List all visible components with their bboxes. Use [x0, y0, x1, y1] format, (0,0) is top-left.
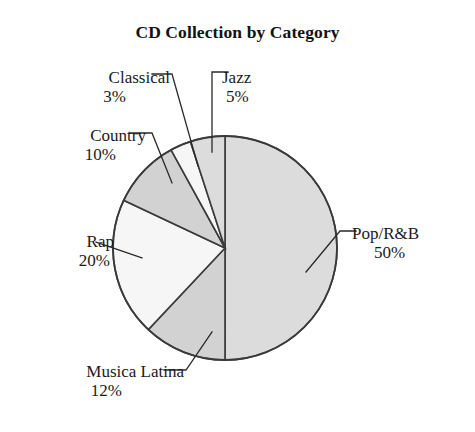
slice-label-country-name: Country	[28, 126, 146, 145]
slice-label-classical: Classical 3%	[52, 68, 170, 106]
slice-label-classical-percent: 3%	[52, 87, 170, 106]
pie-slice-pop-rnb[interactable]	[225, 136, 337, 360]
slice-label-musica-latina-name: Musica Latina	[8, 362, 184, 381]
slice-label-jazz: Jazz 5%	[222, 68, 312, 106]
slice-label-pop-rnb-percent: 50%	[352, 243, 470, 262]
slice-label-rap-name: Rap	[28, 232, 114, 251]
slice-label-pop-rnb: Pop/R&B 50%	[352, 224, 470, 262]
slice-label-jazz-percent: 5%	[222, 87, 312, 106]
slice-label-musica-latina-percent: 12%	[8, 381, 184, 400]
slice-label-rap: Rap 20%	[28, 232, 114, 270]
slice-label-jazz-name: Jazz	[222, 68, 312, 87]
slice-label-country-percent: 10%	[28, 145, 146, 164]
pie-slices	[113, 136, 337, 360]
pie-chart-figure: CD Collection by Category	[0, 0, 475, 432]
slice-label-musica-latina: Musica Latina 12%	[8, 362, 184, 400]
slice-label-rap-percent: 20%	[28, 251, 114, 270]
slice-label-classical-name: Classical	[52, 68, 170, 87]
slice-label-pop-rnb-name: Pop/R&B	[352, 224, 470, 243]
slice-label-country: Country 10%	[28, 126, 146, 164]
